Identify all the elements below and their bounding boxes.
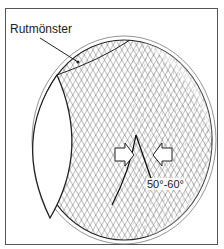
- pattern-label: Rutmönster: [10, 22, 72, 36]
- leader-line: [40, 38, 78, 62]
- angle-label: 50°-60°: [146, 178, 185, 190]
- bore-diagram: [0, 0, 224, 249]
